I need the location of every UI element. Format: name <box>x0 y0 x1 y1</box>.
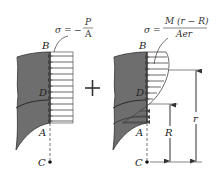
left-label-c: C <box>38 157 46 168</box>
uniform-stress-arrows <box>52 56 73 121</box>
label-R: R <box>164 127 173 138</box>
left-panel: B D A C σ = − P A <box>16 17 93 168</box>
svg-text:=: = <box>153 25 161 35</box>
stress-superposition-diagram: B D A C σ = − P A <box>0 0 216 184</box>
left-formula-leader <box>54 36 68 52</box>
plus-operator <box>85 80 100 96</box>
svg-text:Aer: Aer <box>175 29 193 39</box>
right-label-b: B <box>138 40 146 51</box>
right-panel: r R B D A C σ = M (r − R) Aer <box>113 16 209 168</box>
svg-text:P: P <box>84 17 92 27</box>
right-label-a: A <box>135 127 143 138</box>
svg-text:σ: σ <box>55 25 62 35</box>
left-center-point <box>48 160 52 164</box>
svg-text:A: A <box>84 29 92 39</box>
left-formula: σ = − P A <box>55 17 93 39</box>
right-label-c: C <box>135 157 143 168</box>
right-formula-leader <box>154 38 168 64</box>
right-center-point <box>145 160 149 164</box>
left-label-a: A <box>38 127 46 138</box>
svg-text:M (r − R): M (r − R) <box>164 16 209 26</box>
right-label-d: D <box>135 87 144 98</box>
uniform-stress-block <box>50 52 73 123</box>
svg-text:σ: σ <box>144 25 151 35</box>
svg-text:=: = <box>64 25 72 35</box>
left-label-b: B <box>41 40 49 51</box>
svg-text:−: − <box>74 25 82 35</box>
right-formula: σ = M (r − R) Aer <box>144 16 209 39</box>
left-label-d: D <box>38 87 47 98</box>
